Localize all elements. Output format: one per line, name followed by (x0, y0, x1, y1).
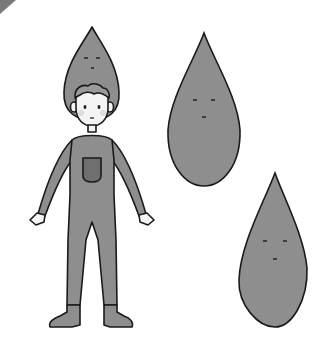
right-arm (112, 140, 146, 216)
costume-child (30, 27, 154, 327)
illustration-canvas (0, 0, 332, 353)
chest-pocket (83, 158, 101, 182)
teardrop-character-small (239, 173, 307, 327)
corner-triangle (0, 0, 16, 14)
left-arm (38, 140, 72, 216)
right-foot (104, 305, 133, 327)
right-hand (139, 213, 154, 225)
child-neck (88, 125, 96, 132)
teardrop-character-large (168, 33, 240, 186)
left-foot (50, 305, 80, 327)
left-hand (30, 213, 45, 225)
right-eye (98, 105, 101, 109)
left-eye (84, 105, 87, 109)
